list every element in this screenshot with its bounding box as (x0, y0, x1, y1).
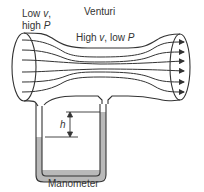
height-label: h (60, 119, 66, 131)
diagram-title: Venturi (84, 6, 115, 18)
inlet-label: Low v, high P (22, 8, 51, 32)
manometer-label: Manometer (48, 178, 99, 190)
throat-label: High v, low P (76, 32, 134, 44)
height-marker (45, 112, 100, 137)
